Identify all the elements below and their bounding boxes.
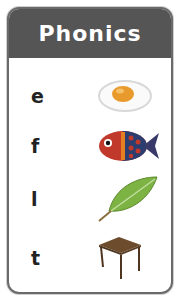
leaf-icon	[97, 175, 159, 223]
phonics-row-leaf: l	[9, 174, 171, 224]
card-title: Phonics	[38, 21, 141, 46]
phonics-card: Phonics e f l	[7, 7, 173, 294]
letter: f	[31, 135, 39, 157]
table-icon	[97, 235, 143, 281]
phonics-row-table: t	[9, 233, 171, 283]
fish-icon	[97, 129, 159, 163]
letter: t	[31, 247, 40, 269]
card-header: Phonics	[9, 9, 171, 58]
phonics-row-egg: e	[9, 71, 171, 121]
egg-icon	[97, 79, 153, 113]
letter: l	[31, 188, 38, 210]
letter: e	[31, 85, 44, 107]
phonics-row-fish: f	[9, 121, 171, 171]
